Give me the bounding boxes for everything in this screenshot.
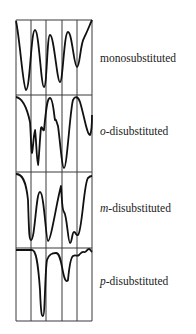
spectrum-curve-para <box>16 249 92 316</box>
grid-lines <box>16 20 92 321</box>
panel-label-para: p-disubstituted <box>100 274 168 288</box>
spectrum-curve-meta <box>16 174 92 243</box>
panel-label-ortho: o-disubstituted <box>100 124 168 138</box>
label-text: -disubstituted <box>106 275 169 287</box>
label-text: monosubstituted <box>100 52 176 64</box>
panel-label-meta: m-disubstituted <box>100 201 171 215</box>
label-text: -disubstituted <box>108 202 171 214</box>
panel-label-mono: monosubstituted <box>100 51 176 65</box>
spectrum-curve-ortho <box>16 97 92 168</box>
spectrum-curves <box>16 20 92 316</box>
spectrum-curve-mono <box>16 20 92 90</box>
label-text: -disubstituted <box>106 125 169 137</box>
